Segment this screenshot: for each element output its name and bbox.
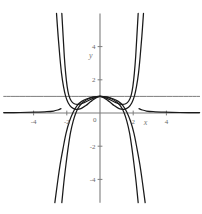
function-plot: -4-224-4-2240yx [0, 0, 202, 214]
y-tick-label: -4 [90, 176, 96, 184]
y-tick-label: -2 [90, 143, 96, 151]
y-axis-label: y [88, 51, 93, 60]
y-tick-label: 2 [92, 76, 96, 84]
x-tick-label: 2 [131, 118, 135, 126]
x-tick-label: 4 [165, 118, 169, 126]
x-tick-label: -4 [31, 118, 37, 126]
origin-label: 0 [93, 116, 97, 124]
x-tick-label: -2 [64, 118, 70, 126]
x-axis-label: x [143, 118, 148, 127]
plot-background [0, 0, 202, 214]
y-tick-label: 4 [92, 43, 96, 51]
plot-canvas: -4-224-4-2240yx [0, 0, 202, 214]
